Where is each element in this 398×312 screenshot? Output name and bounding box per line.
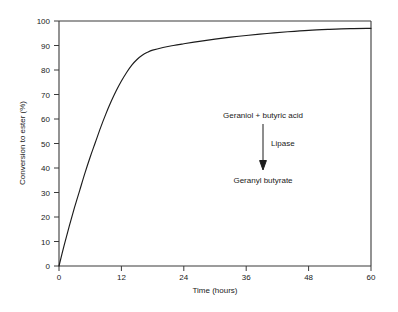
chart-figure: 100 90 80 70 60 50 40 30 20 10 0 0 12 24… bbox=[0, 0, 398, 312]
x-tick-label-0: 0 bbox=[57, 273, 62, 282]
x-tick-label-48: 48 bbox=[304, 273, 313, 282]
y-tick-label-70: 70 bbox=[41, 91, 50, 100]
y-tick-label-20: 20 bbox=[41, 213, 50, 222]
y-tick-label-60: 60 bbox=[41, 115, 50, 124]
plot-frame bbox=[59, 21, 371, 266]
arrow-head-icon bbox=[260, 161, 267, 171]
y-tick-label-30: 30 bbox=[41, 189, 50, 198]
y-tick-label-0: 0 bbox=[46, 262, 51, 271]
y-tick-label-50: 50 bbox=[41, 140, 50, 149]
reaction-scheme-annotation: Geraniol + butyric acid Lipase Geranyl b… bbox=[223, 111, 303, 185]
y-tick-label-80: 80 bbox=[41, 66, 50, 75]
x-axis-title: Time (hours) bbox=[192, 286, 237, 295]
annotation-product: Geranyl butyrate bbox=[233, 176, 293, 185]
y-tick-label-40: 40 bbox=[41, 164, 50, 173]
x-tick-label-36: 36 bbox=[242, 273, 251, 282]
x-tick-label-60: 60 bbox=[367, 273, 376, 282]
y-axis-tick-labels: 100 90 80 70 60 50 40 30 20 10 0 bbox=[37, 17, 51, 271]
x-axis-ticks bbox=[59, 266, 371, 271]
conversion-time-line-chart: 100 90 80 70 60 50 40 30 20 10 0 0 12 24… bbox=[0, 0, 398, 312]
x-tick-label-24: 24 bbox=[179, 273, 188, 282]
y-tick-label-100: 100 bbox=[37, 17, 51, 26]
y-tick-label-10: 10 bbox=[41, 238, 50, 247]
y-axis-ticks bbox=[54, 21, 59, 266]
x-axis-tick-labels: 0 12 24 36 48 60 bbox=[57, 273, 376, 282]
annotation-reactants: Geraniol + butyric acid bbox=[223, 111, 303, 120]
x-tick-label-12: 12 bbox=[117, 273, 126, 282]
conversion-curve bbox=[59, 28, 371, 266]
annotation-catalyst: Lipase bbox=[271, 139, 295, 148]
y-axis-title: Conversion to ester (%) bbox=[18, 101, 27, 185]
y-tick-label-90: 90 bbox=[41, 42, 50, 51]
